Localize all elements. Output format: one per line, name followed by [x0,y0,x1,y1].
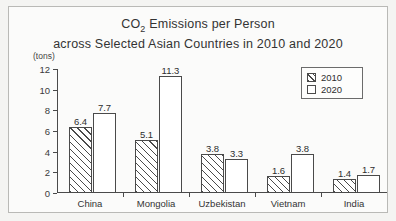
y-tick-label-4: 4 [45,146,50,157]
bar-mongolia-2020: 11.3 [159,76,182,193]
chart-title-line-1: CO2 Emissions per Person [9,17,387,37]
bar-india-2010: 1.4 [333,179,356,193]
bar-value-china-2020: 7.7 [98,102,111,113]
bar-value-vietnam-2020: 3.8 [296,143,309,154]
legend-swatch-2020 [307,85,316,94]
legend-item-2010: 2010 [307,71,357,83]
y-axis-unit-label: (tons) [33,51,55,61]
bar-value-vietnam-2010: 1.6 [272,165,285,176]
x-axis-label-china: China [78,198,103,209]
bar-vietnam-2010: 1.6 [267,176,290,193]
legend-swatch-2010 [307,73,316,82]
y-tick-label-6: 6 [45,126,50,137]
bar-value-uzbekistan-2010: 3.8 [206,143,219,154]
bar-vietnam-2020: 3.8 [291,154,314,193]
bar-value-india-2020: 1.7 [362,164,375,175]
x-separator-4 [321,193,322,197]
y-tick-label-12: 12 [39,64,50,75]
legend-label-2020: 2020 [321,84,342,95]
bar-uzbekistan-2010: 3.8 [201,154,224,193]
bar-india-2020: 1.7 [357,175,380,193]
x-separator-1 [123,193,124,197]
y-tick-label-8: 8 [45,105,50,116]
bar-group-uzbekistan: 3.83.3Uzbekistan [189,69,255,193]
bar-mongolia-2010: 5.1 [135,140,158,193]
bar-group-china: 6.47.7China [57,69,123,193]
chart-title: CO2 Emissions per Person across Selected… [9,17,387,52]
y-tick-label-10: 10 [39,84,50,95]
bar-value-mongolia-2020: 11.3 [162,65,180,76]
x-separator-3 [255,193,256,197]
x-separator-2 [189,193,190,197]
bar-china-2020: 7.7 [93,113,116,193]
x-axis-label-india: India [344,198,365,209]
x-axis-label-vietnam: Vietnam [271,198,306,209]
bar-value-mongolia-2010: 5.1 [140,129,153,140]
y-tick-0 [53,193,57,194]
bar-value-india-2010: 1.4 [338,168,351,179]
legend-label-2010: 2010 [321,72,342,83]
chart-legend: 20102020 [301,67,363,99]
x-axis-label-mongolia: Mongolia [137,198,176,209]
legend-item-2020: 2020 [307,83,357,95]
y-tick-label-0: 0 [45,188,50,199]
bar-group-mongolia: 5.111.3Mongolia [123,69,189,193]
bar-value-china-2010: 6.4 [74,116,87,127]
chart-title-co: CO [121,17,140,31]
chart-title-rest: Emissions per Person [146,17,275,31]
bar-uzbekistan-2020: 3.3 [225,159,248,193]
y-tick-label-2: 2 [45,167,50,178]
x-axis-label-uzbekistan: Uzbekistan [199,198,246,209]
chart-title-line-2: across Selected Asian Countries in 2010 … [9,37,387,52]
bar-value-uzbekistan-2020: 3.3 [230,148,243,159]
chart-figure: CO2 Emissions per Person across Selected… [8,6,388,213]
bar-china-2010: 6.4 [69,127,92,193]
